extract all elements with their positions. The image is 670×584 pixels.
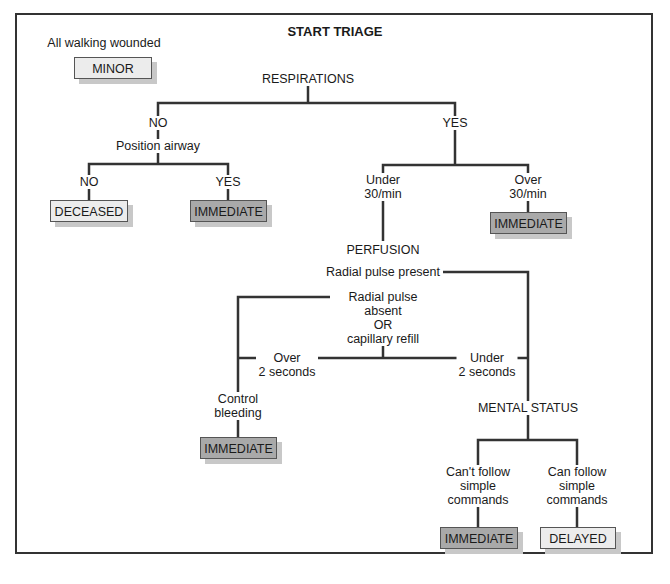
radial-absent-label: Radial pulse absent OR capillary refill — [345, 290, 421, 346]
immediate-box-perfusion: IMMEDIATE — [200, 437, 277, 459]
control-bleeding-line2: bleeding — [214, 406, 261, 420]
airway-yes-label: YES — [213, 175, 242, 189]
can-follow-line2: simple — [546, 479, 607, 493]
under-2s-label: Under 2 seconds — [457, 351, 518, 379]
radial-absent-line3: OR — [347, 318, 419, 332]
over-30-label: Over 30/min — [507, 173, 549, 201]
can-follow-line3: commands — [546, 493, 607, 507]
control-bleeding-label: Control bleeding — [212, 392, 263, 420]
respirations-label: RESPIRATIONS — [260, 72, 356, 86]
over-2s-line2: 2 seconds — [259, 365, 316, 379]
airway-no-label: NO — [78, 175, 101, 189]
radial-absent-line1: Radial pulse — [347, 290, 419, 304]
minor-box: MINOR — [74, 57, 152, 79]
cant-follow-line3: commands — [446, 493, 510, 507]
under-30-line1: Under — [364, 173, 402, 187]
under-30-label: Under 30/min — [362, 173, 404, 201]
can-follow-line1: Can follow — [546, 465, 607, 479]
under-2s-line2: 2 seconds — [459, 365, 516, 379]
immediate-box-mental: IMMEDIATE — [440, 527, 518, 549]
delayed-box: DELAYED — [540, 527, 616, 549]
control-bleeding-line1: Control — [214, 392, 261, 406]
over-2s-line1: Over — [259, 351, 316, 365]
resp-yes-label: YES — [440, 116, 469, 130]
under-2s-line1: Under — [459, 351, 516, 365]
cant-follow-label: Can't follow simple commands — [444, 465, 512, 507]
deceased-box: DECEASED — [50, 200, 128, 222]
under-30-line2: 30/min — [364, 187, 402, 201]
over-2s-label: Over 2 seconds — [257, 351, 318, 379]
cant-follow-line1: Can't follow — [446, 465, 510, 479]
cant-follow-line2: simple — [446, 479, 510, 493]
perfusion-label: PERFUSION — [345, 243, 422, 257]
over-30-line2: 30/min — [509, 187, 547, 201]
walking-wounded-label: All walking wounded — [45, 36, 162, 50]
radial-absent-line2: absent — [347, 304, 419, 318]
immediate-box-airway: IMMEDIATE — [190, 200, 267, 222]
position-airway-label: Position airway — [114, 139, 202, 153]
can-follow-label: Can follow simple commands — [544, 465, 609, 507]
radial-absent-line4: capillary refill — [347, 332, 419, 346]
over-30-line1: Over — [509, 173, 547, 187]
immediate-box-resp: IMMEDIATE — [490, 212, 567, 234]
diagram-title: START TRIAGE — [287, 24, 382, 39]
radial-present-label: Radial pulse present — [324, 265, 442, 279]
mental-status-label: MENTAL STATUS — [476, 401, 580, 415]
resp-no-label: NO — [147, 116, 170, 130]
